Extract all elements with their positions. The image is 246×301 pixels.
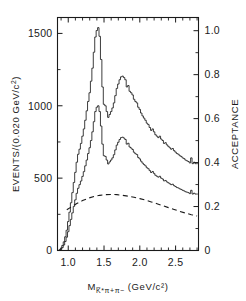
y2-tick-label: 0 bbox=[205, 244, 211, 256]
y-tick-label: 500 bbox=[34, 172, 52, 184]
x-tick-label: 1.0 bbox=[60, 256, 76, 268]
x-tick-label: 2.5 bbox=[168, 256, 184, 268]
y2-tick-label: 1.0 bbox=[205, 24, 221, 36]
acceptance-curve bbox=[67, 194, 197, 216]
figure-container: 1.01.52.02.505001000150000.20.40.60.81.0… bbox=[0, 0, 246, 301]
y-axis-title: EVENTS/(0.020 GeV/c2) bbox=[10, 76, 21, 192]
y2-tick-label: 0.6 bbox=[205, 112, 221, 124]
y2-tick-label: 0.2 bbox=[205, 200, 221, 212]
y-tick-label: 1000 bbox=[28, 100, 53, 112]
lower-histogram bbox=[59, 106, 198, 251]
upper-histogram bbox=[59, 28, 198, 251]
y2-axis-title: ACCEPTANCE bbox=[229, 99, 240, 169]
x-tick-label: 1.5 bbox=[96, 256, 112, 268]
y2-tick-label: 0.8 bbox=[205, 68, 221, 80]
y-tick-label: 1500 bbox=[28, 27, 53, 39]
plot-frame bbox=[58, 18, 199, 251]
y2-tick-label: 0.4 bbox=[205, 156, 221, 168]
x-tick-label: 2.0 bbox=[132, 256, 148, 268]
x-axis-title: MK̅*π+π−(GeV/c²) bbox=[87, 281, 168, 294]
y-tick-label: 0 bbox=[46, 244, 52, 256]
mass-spectrum-chart: 1.01.52.02.505001000150000.20.40.60.81.0… bbox=[0, 0, 246, 301]
